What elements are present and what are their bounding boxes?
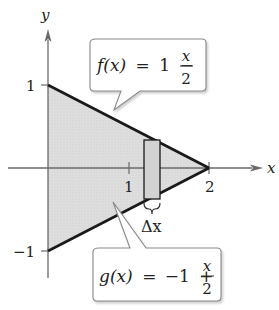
f-lhs: f(x) [95,55,126,75]
g-lhs: g(x) [99,266,133,286]
g-const: −1 [165,266,190,286]
svg-text:f(x) = 1 −: f(x) = 1 − [95,55,194,75]
f-eq: = [136,55,150,75]
x-axis-label: x [267,159,276,177]
representative-rectangle [144,140,160,199]
f-numerator: x [182,47,191,65]
g-eq: = [142,266,156,286]
f-const: 1 [159,55,170,75]
y-tick-label-neg1: −1 [13,243,35,261]
f-denominator: 2 [181,70,191,88]
brace-icon [144,203,160,214]
y-tick-label-1: 1 [26,77,36,95]
g-denominator: 2 [202,280,212,298]
g-numerator: x [203,257,212,275]
y-axis-label: y [40,6,50,24]
graph-figure: y x 1 −1 1 2 Δx f(x) = 1 − x 2 g(x) = −1… [0,0,279,310]
x-tick-label-1: 1 [124,178,134,196]
x-tick-label-2: 2 [205,178,215,196]
delta-x-label: Δx [141,217,162,236]
